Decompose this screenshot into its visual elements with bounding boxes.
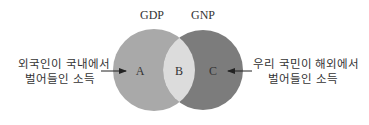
right-annotation-line1: 우리 국민이 해외에서 xyxy=(253,57,353,72)
venn-diagram: GDP GNP A B C 외국인이 국내에서 벌어들인 소득 우리 국민이 해… xyxy=(0,0,369,125)
left-annotation: 외국인이 국내에서 벌어들인 소득 xyxy=(18,57,102,87)
region-b-label: B xyxy=(169,64,189,78)
right-annotation-line2: 벌어들인 소득 xyxy=(253,72,353,87)
gnp-title: GNP xyxy=(183,8,223,22)
left-annotation-line1: 외국인이 국내에서 xyxy=(18,57,102,72)
region-a-label: A xyxy=(130,64,150,78)
right-annotation: 우리 국민이 해외에서 벌어들인 소득 xyxy=(253,57,353,87)
region-c-label: C xyxy=(203,64,223,78)
gdp-title: GDP xyxy=(132,8,172,22)
left-annotation-line2: 벌어들인 소득 xyxy=(18,72,102,87)
